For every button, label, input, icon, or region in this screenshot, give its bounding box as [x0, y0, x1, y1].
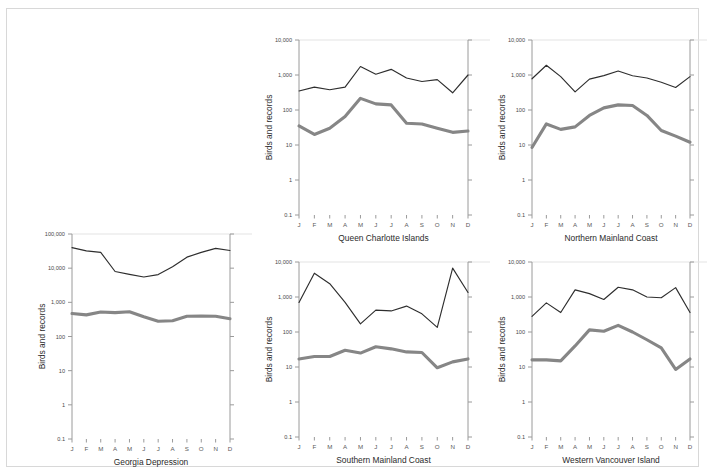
y-axis-title: Birds and records: [497, 317, 507, 383]
x-tick-label: A: [343, 443, 348, 450]
chart-panel-4: 0.11101001,00010,000JFMAMJJASONDWestern …: [485, 241, 699, 467]
chart-panel-0: 0.11101001,00010,000100,000JFMAMJJASONDG…: [15, 214, 249, 469]
y-tick-label: 100,000: [45, 231, 65, 237]
x-tick-label: O: [659, 221, 664, 228]
y-tick-label: 10: [519, 364, 525, 370]
x-tick-label: J: [374, 443, 377, 450]
y-tick-label: 1,000: [278, 72, 292, 78]
x-tick-label: D: [228, 445, 233, 452]
x-tick-label: N: [450, 443, 454, 450]
x-tick-label: M: [558, 443, 563, 450]
x-tick-label: S: [420, 443, 424, 450]
x-tick-label: J: [374, 221, 377, 228]
x-tick-label: D: [688, 443, 693, 450]
x-tick-label: O: [659, 443, 664, 450]
x-tick-label: J: [390, 443, 393, 450]
y-tick-label: 100: [516, 329, 525, 335]
x-tick-label: M: [587, 221, 592, 228]
x-tick-label: D: [466, 221, 471, 228]
x-tick-label: J: [530, 443, 533, 450]
y-tick-label: 10,000: [508, 37, 525, 43]
series-line-records: [299, 66, 468, 92]
y-tick-label: 1,000: [278, 294, 292, 300]
series-group: [299, 268, 468, 368]
x-tick-label: A: [573, 443, 578, 450]
y-axis-title: Birds and records: [497, 95, 507, 161]
x-tick-label: J: [617, 443, 620, 450]
y-tick-label: 1: [522, 399, 525, 405]
chart-title: Southern Mainland Coast: [336, 455, 431, 465]
x-tick-label: N: [673, 221, 677, 228]
x-tick-label: J: [617, 221, 620, 228]
grid-and-axes: 0.11101001,00010,000JFMAMJJASOND: [508, 259, 707, 450]
x-tick-label: J: [602, 443, 605, 450]
y-axis-title: Birds and records: [264, 317, 274, 383]
x-tick-label: F: [312, 443, 316, 450]
y-tick-label: 1: [522, 177, 525, 183]
x-tick-label: S: [420, 221, 424, 228]
y-tick-label: 100: [516, 107, 525, 113]
y-tick-label: 1,000: [51, 299, 65, 305]
grid-and-axes: 0.11101001,00010,000100,000JFMAMJJASOND: [45, 231, 252, 452]
x-tick-label: J: [297, 443, 300, 450]
x-tick-label: M: [587, 443, 592, 450]
x-tick-label: O: [199, 445, 204, 452]
x-tick-label: S: [185, 445, 189, 452]
chart-panel-2: 0.11101001,00010,000JFMAMJJASONDNorthern…: [485, 19, 699, 244]
y-tick-label: 1,000: [511, 294, 525, 300]
x-tick-label: J: [297, 221, 300, 228]
series-line-records: [299, 268, 468, 327]
x-tick-label: J: [390, 221, 393, 228]
series-line-birds: [299, 98, 468, 134]
y-tick-label: 0.1: [517, 434, 525, 440]
y-tick-label: 100: [283, 329, 292, 335]
x-tick-label: F: [84, 445, 88, 452]
series-line-records: [72, 248, 230, 277]
x-tick-label: N: [450, 221, 454, 228]
chart-title: Georgia Depression: [114, 457, 189, 467]
x-tick-label: A: [113, 445, 118, 452]
x-tick-label: S: [645, 443, 649, 450]
x-tick-label: M: [558, 221, 563, 228]
chart-panel-3: 0.11101001,00010,000JFMAMJJASONDSouthern…: [252, 241, 480, 467]
x-tick-label: F: [544, 221, 548, 228]
y-tick-label: 1,000: [511, 72, 525, 78]
x-tick-label: A: [630, 443, 635, 450]
y-tick-label: 10: [286, 364, 292, 370]
x-tick-label: F: [312, 221, 316, 228]
y-tick-label: 10,000: [508, 259, 525, 265]
x-tick-label: N: [673, 443, 677, 450]
y-tick-label: 10,000: [275, 37, 292, 43]
x-tick-label: S: [645, 221, 649, 228]
y-tick-label: 0.1: [57, 436, 65, 442]
x-tick-label: A: [630, 221, 635, 228]
y-tick-label: 10: [286, 142, 292, 148]
y-tick-label: 1: [289, 399, 292, 405]
x-tick-label: J: [142, 445, 145, 452]
series-line-records: [532, 65, 690, 92]
x-tick-label: A: [404, 443, 409, 450]
x-tick-label: J: [530, 221, 533, 228]
series-group: [532, 65, 690, 147]
series-group: [532, 287, 690, 369]
y-tick-label: 10,000: [48, 265, 65, 271]
y-tick-label: 0.1: [284, 212, 292, 218]
y-tick-label: 10,000: [275, 259, 292, 265]
y-tick-label: 100: [283, 107, 292, 113]
series-group: [72, 248, 230, 322]
y-tick-label: 1: [289, 177, 292, 183]
y-tick-label: 0.1: [517, 212, 525, 218]
x-tick-label: M: [358, 221, 363, 228]
series-group: [299, 66, 468, 134]
x-tick-label: D: [688, 221, 693, 228]
series-line-records: [532, 287, 690, 316]
y-tick-label: 1: [62, 402, 65, 408]
x-tick-label: M: [358, 443, 363, 450]
x-tick-label: A: [404, 221, 409, 228]
chart-title: Western Vancouver Island: [562, 455, 660, 465]
x-tick-label: J: [70, 445, 73, 452]
x-tick-label: A: [573, 221, 578, 228]
y-tick-label: 10: [519, 142, 525, 148]
x-tick-label: M: [327, 443, 332, 450]
x-tick-label: A: [343, 221, 348, 228]
